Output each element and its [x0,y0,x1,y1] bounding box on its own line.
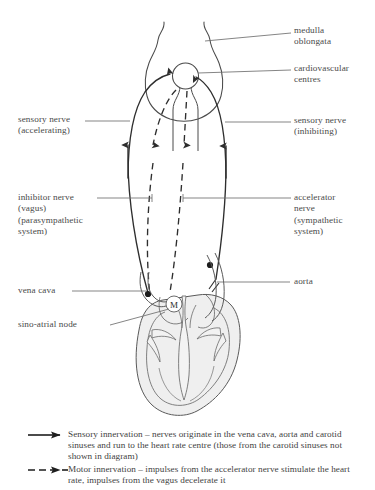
label-sensory-nerve-accelerating: sensory nerve (accelerating) [18,114,70,137]
label-sino-atrial-node: sino-atrial node [18,319,77,330]
label-sensory-nerve-inhibiting: sensory nerve (inhibiting) [294,115,346,138]
legend-symbols [28,435,68,470]
label-inhibitor-nerve-vagus: inhibitor nerve (vagus) (parasympathetic… [18,192,83,238]
sa-node-glyph: M [170,300,178,310]
diagram-page: M [0,0,375,490]
label-medulla-oblongata: medulla oblongata [294,25,331,48]
sensory-nerve-accelerating-path [128,74,170,293]
label-accelerator-nerve-sympathetic: accelerator nerve (sympathetic system) [294,192,343,238]
label-cardiovascular-centres: cardiovascular centres [294,63,349,86]
label-vena-cava: vena cava [18,285,55,296]
legend-text-sensory: Sensory innervation – nerves originate i… [68,429,366,463]
sensory-nerve-inhibiting-path [196,77,226,292]
inhibitor-nerve-vagus-path [147,90,176,296]
label-aorta: aorta [294,276,313,287]
cardiovascular-centres-circle [173,63,199,89]
heart-shape [136,294,240,415]
legend-text-motor: Motor innervation – impulses from the ac… [68,464,366,486]
